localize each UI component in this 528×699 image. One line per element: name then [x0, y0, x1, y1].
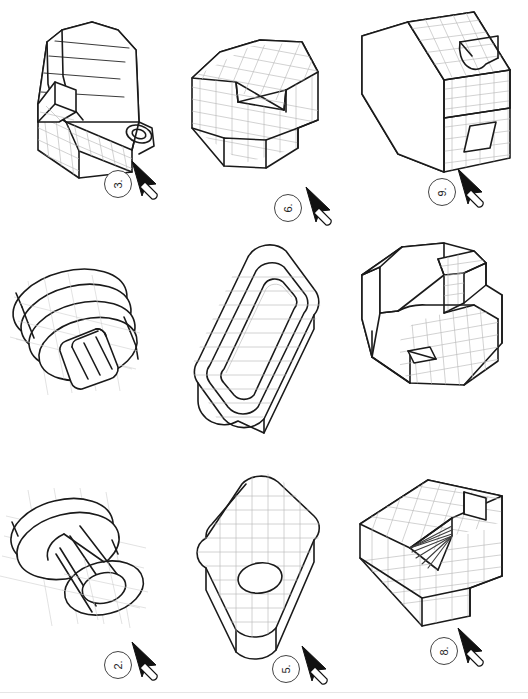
- figure-cell-2[interactable]: 2.: [0, 233, 176, 466]
- figure-drawing-1: [0, 466, 176, 699]
- figure-cell-5[interactable]: 5.: [176, 233, 352, 466]
- figure-number-9: 9.: [436, 187, 448, 196]
- figure-cell-1[interactable]: 1.: [0, 466, 176, 699]
- figure-drawing-5: [176, 233, 352, 466]
- figure-badge-9[interactable]: 9.: [428, 178, 456, 206]
- stylus-pointer-icon-6[interactable]: [302, 184, 336, 226]
- figure-cell-7[interactable]: 7.: [352, 466, 528, 699]
- figure-drawing-8: [352, 233, 528, 466]
- figure-cell-9[interactable]: 9.: [352, 0, 528, 233]
- figure-drawing-7: [352, 466, 528, 699]
- sheet-footer-rule: [0, 692, 528, 699]
- figure-cell-8[interactable]: 8.: [352, 233, 528, 466]
- figure-badge-6[interactable]: 6.: [274, 194, 302, 222]
- stylus-pointer-icon-3[interactable]: [128, 158, 162, 200]
- stylus-pointer-icon-9[interactable]: [454, 166, 488, 208]
- figure-cell-4[interactable]: 4.: [176, 466, 352, 699]
- figure-drawing-2: [0, 233, 176, 466]
- figure-drawing-4: [176, 466, 352, 699]
- figure-cell-3[interactable]: 3.: [0, 0, 176, 233]
- figure-cell-6[interactable]: 6.: [176, 0, 352, 233]
- figure-number-6: 6.: [282, 203, 294, 212]
- drawing-sheet: 3.: [0, 0, 528, 699]
- figure-number-3: 3.: [112, 179, 124, 188]
- figure-grid: 3.: [0, 0, 528, 699]
